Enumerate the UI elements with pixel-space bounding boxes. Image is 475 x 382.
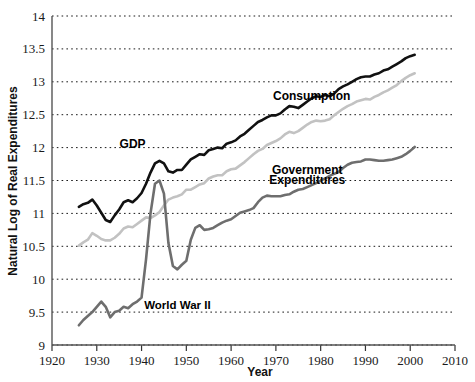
annotation-gdp: GDP bbox=[120, 137, 146, 151]
ytick-label-10.5: 10.5 bbox=[22, 239, 45, 254]
y-axis-title: Natural Log of Real Expenditures bbox=[6, 86, 20, 276]
ytick-label-9: 9 bbox=[39, 338, 46, 353]
ytick-label-10: 10 bbox=[32, 272, 45, 287]
xtick-label-2000: 2000 bbox=[397, 353, 423, 368]
chart-background bbox=[0, 0, 475, 382]
xtick-label-1990: 1990 bbox=[352, 353, 378, 368]
annotation-consumption: Consumption bbox=[273, 89, 350, 103]
annotation-world-war-ii: World War II bbox=[144, 299, 210, 311]
ytick-label-11.5: 11.5 bbox=[23, 173, 45, 188]
xtick-label-1940: 1940 bbox=[129, 353, 155, 368]
chart-container: 99.51010.51111.51212.51313.514 192019301… bbox=[0, 0, 475, 382]
xtick-label-1930: 1930 bbox=[84, 353, 110, 368]
expenditures-line-chart: 99.51010.51111.51212.51313.514 192019301… bbox=[0, 0, 475, 382]
x-axis-title: Year bbox=[247, 365, 273, 379]
xtick-label-1980: 1980 bbox=[308, 353, 334, 368]
ytick-label-13.5: 13.5 bbox=[22, 41, 45, 56]
xtick-label-1950: 1950 bbox=[173, 353, 199, 368]
xtick-label-1920: 1920 bbox=[39, 353, 65, 368]
annotation-expenditures: Expenditures bbox=[269, 173, 345, 187]
ytick-label-11: 11 bbox=[32, 206, 45, 221]
ytick-label-12.5: 12.5 bbox=[22, 107, 45, 122]
xtick-label-2010: 2010 bbox=[442, 353, 468, 368]
ytick-label-9.5: 9.5 bbox=[29, 305, 45, 320]
xtick-label-1960: 1960 bbox=[218, 353, 244, 368]
ytick-label-14: 14 bbox=[32, 9, 46, 24]
ytick-label-12: 12 bbox=[32, 140, 45, 155]
ytick-label-13: 13 bbox=[32, 74, 45, 89]
